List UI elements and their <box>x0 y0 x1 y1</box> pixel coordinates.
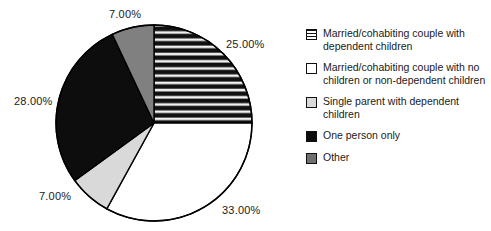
pie-percentage-label: 7.00% <box>39 190 71 202</box>
legend-item-label: One person only <box>323 129 400 142</box>
pie-percentage-label: 33.00% <box>222 204 261 216</box>
legend-swatch-striped <box>306 29 317 40</box>
legend-item[interactable]: One person only <box>306 129 488 142</box>
pie-percentage-label: 25.00% <box>226 38 265 50</box>
legend-swatch-white <box>306 63 317 74</box>
pie-chart-plot-area: 25.00%33.00%7.00%28.00%7.00% <box>0 0 300 231</box>
legend-item[interactable]: Married/cohabiting couple with dependent… <box>306 27 488 52</box>
legend-item[interactable]: Other <box>306 151 488 164</box>
legend-item-label: Married/cohabiting couple with dependent… <box>323 27 488 52</box>
chart-legend: Married/cohabiting couple with dependent… <box>306 27 488 173</box>
pie-percentage-label: 28.00% <box>14 95 53 107</box>
legend-item[interactable]: Single parent with dependent children <box>306 95 488 120</box>
legend-item-label: Other <box>323 151 349 164</box>
legend-swatch-black <box>306 131 317 142</box>
legend-item-label: Married/cohabiting couple with no childr… <box>323 61 488 86</box>
pie-chart-figure: 25.00%33.00%7.00%28.00%7.00% Married/coh… <box>0 0 491 231</box>
legend-swatch-medium-gray <box>306 153 317 164</box>
legend-item-label: Single parent with dependent children <box>323 95 488 120</box>
legend-swatch-light-gray <box>306 97 317 108</box>
legend-item[interactable]: Married/cohabiting couple with no childr… <box>306 61 488 86</box>
pie-percentage-label: 7.00% <box>109 8 141 20</box>
